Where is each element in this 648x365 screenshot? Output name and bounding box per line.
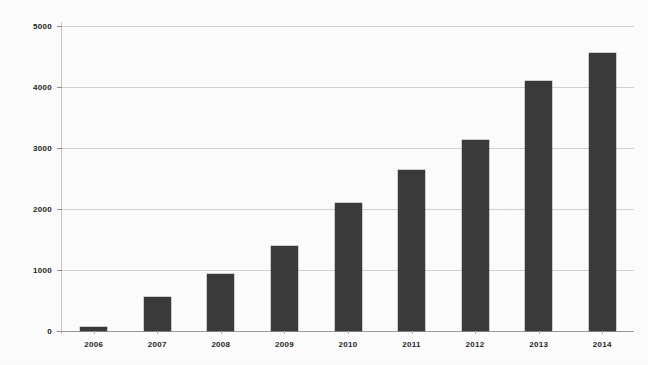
bar-2013[interactable]: [525, 81, 552, 331]
bar-rect-2007[interactable]: [144, 297, 171, 331]
x-axis-label-2014: 2014: [577, 340, 627, 349]
bar-rect-2008[interactable]: [207, 274, 234, 331]
x-tick-2008: [221, 331, 222, 334]
bar-2010[interactable]: [335, 203, 362, 331]
y-axis-label-3000: 3000: [0, 144, 52, 153]
x-axis-label-2009: 2009: [259, 340, 309, 349]
bar-rect-2013[interactable]: [525, 81, 552, 331]
bar-2011[interactable]: [398, 170, 425, 331]
bar-2014[interactable]: [589, 53, 616, 331]
bar-rect-2012[interactable]: [462, 140, 489, 331]
x-axis-label-2006: 2006: [69, 340, 119, 349]
x-tick-2011: [412, 331, 413, 334]
x-tick-2009: [284, 331, 285, 334]
bar-2008[interactable]: [207, 274, 234, 331]
bar-rect-2010[interactable]: [335, 203, 362, 331]
bar-rect-2009[interactable]: [271, 246, 298, 331]
x-tick-2013: [539, 331, 540, 334]
x-axis-label-2011: 2011: [387, 340, 437, 349]
x-tick-2006: [94, 331, 95, 334]
x-axis-label-2013: 2013: [514, 340, 564, 349]
y-axis-label-0: 0: [0, 327, 52, 336]
y-axis-label-1000: 1000: [0, 266, 52, 275]
bar-2007[interactable]: [144, 297, 171, 331]
x-axis-label-2012: 2012: [450, 340, 500, 349]
bar-rect-2011[interactable]: [398, 170, 425, 331]
x-tick-2007: [157, 331, 158, 334]
bar-2012[interactable]: [462, 140, 489, 331]
bar-rect-2014[interactable]: [589, 53, 616, 331]
y-axis-label-2000: 2000: [0, 205, 52, 214]
x-axis-label-2008: 2008: [196, 340, 246, 349]
x-tick-2012: [475, 331, 476, 334]
bar-2009[interactable]: [271, 246, 298, 331]
bars-layer: [62, 0, 634, 365]
bar-chart: 010002000300040005000 200620072008200920…: [0, 0, 648, 365]
x-axis-label-2007: 2007: [132, 340, 182, 349]
x-axis-label-2010: 2010: [323, 340, 373, 349]
x-tick-2010: [348, 331, 349, 334]
y-axis-label-5000: 5000: [0, 22, 52, 31]
x-tick-2014: [602, 331, 603, 334]
y-axis-label-4000: 4000: [0, 83, 52, 92]
